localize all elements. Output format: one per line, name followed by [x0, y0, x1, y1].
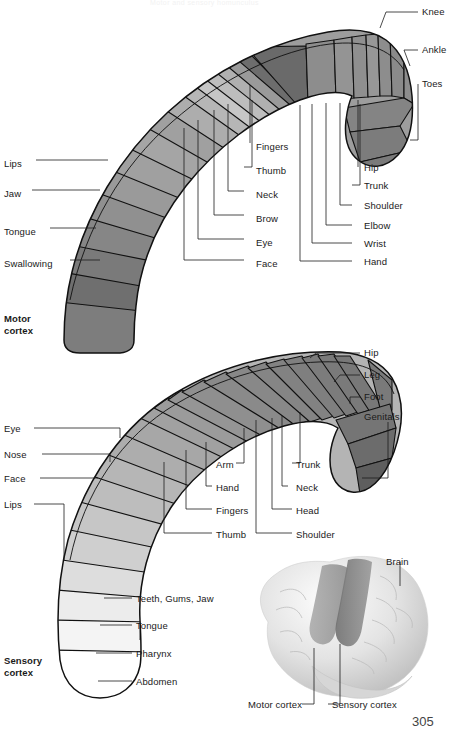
sensory-label-leg: Leg	[364, 369, 380, 380]
brain-label-sensory-cortex: Sensory cortex	[332, 699, 397, 710]
motor-label-shoulder: Shoulder	[364, 200, 403, 211]
motor-label-elbow: Elbow	[364, 220, 390, 231]
page-number: 305	[412, 714, 434, 729]
sensory-label-trunk: Trunk	[296, 459, 320, 470]
sensory-label-hand: Hand	[216, 482, 239, 493]
brain-inset-title: Brain	[386, 556, 409, 567]
brain-inset	[0, 0, 449, 731]
motor-label-thumb: Thumb	[256, 165, 286, 176]
sensory-label-genitals: Genitals	[364, 411, 400, 422]
sensory-label-tongue: Tongue	[136, 620, 168, 631]
sensory-label-pharynx: Pharynx	[136, 648, 172, 659]
sensory-label-lips: Lips	[4, 499, 22, 510]
motor-label-knee: Knee	[422, 6, 445, 17]
motor-label-eye: Eye	[256, 237, 273, 248]
sensory-label-foot: Foot	[364, 391, 383, 402]
motor-label-tongue: Tongue	[4, 226, 36, 237]
sensory-label-face: Face	[4, 473, 26, 484]
sensory-label-eye: Eye	[4, 423, 21, 434]
motor-label-brow: Brow	[256, 213, 278, 224]
sensory-label-arm: Arm	[216, 459, 234, 470]
sensory-cortex-caption: Sensory cortex	[4, 655, 42, 678]
motor-label-trunk: Trunk	[364, 180, 388, 191]
motor-label-hip: Hip	[364, 162, 379, 173]
sensory-label-neck: Neck	[296, 482, 318, 493]
motor-label-hand: Hand	[364, 256, 387, 267]
sensory-label-head: Head	[296, 505, 319, 516]
motor-label-toes: Toes	[422, 78, 442, 89]
motor-label-wrist: Wrist	[364, 238, 386, 249]
motor-label-jaw: Jaw	[4, 188, 21, 199]
motor-label-neck: Neck	[256, 189, 278, 200]
motor-label-face: Face	[256, 258, 278, 269]
sensory-label-shoulder: Shoulder	[296, 529, 335, 540]
sensory-label-fingers: Fingers	[216, 505, 248, 516]
sensory-label-teeth-gums-jaw: Teeth, Gums, Jaw	[136, 593, 214, 604]
sensory-label-abdomen: Abdomen	[136, 676, 177, 687]
motor-label-ankle: Ankle	[422, 44, 446, 55]
sensory-label-hip: Hip	[364, 347, 379, 358]
brain-illustration	[260, 556, 428, 704]
motor-cortex-caption: Motor cortex	[4, 313, 33, 336]
sensory-label-nose: Nose	[4, 449, 27, 460]
sensory-label-thumb: Thumb	[216, 529, 246, 540]
motor-label-lips: Lips	[4, 158, 22, 169]
figure-canvas: Motor and sensory homunculus	[0, 0, 449, 731]
brain-label-motor-cortex: Motor cortex	[248, 699, 302, 710]
motor-label-swallowing: Swallowing	[4, 258, 53, 269]
motor-label-fingers: Fingers	[256, 141, 288, 152]
